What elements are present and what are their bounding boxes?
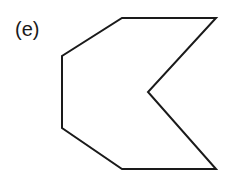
polygon-diagram: [0, 0, 235, 183]
concave-polygon-shape: [62, 18, 216, 169]
